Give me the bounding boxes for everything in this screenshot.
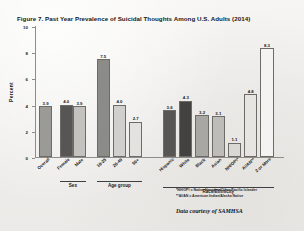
group-label-sex: Sex bbox=[69, 183, 77, 188]
footnote-nhopi: *NH/OPI = Native Hawaiian/Other Pacific … bbox=[176, 188, 257, 193]
bar-value-label: 1.1 bbox=[232, 137, 238, 142]
x-axis-label: Overall bbox=[36, 157, 50, 171]
y-tick-label: 2 bbox=[26, 129, 28, 134]
x-axis-label: NH/OPI* bbox=[224, 157, 240, 172]
bar-value-label: 3.2 bbox=[199, 110, 205, 115]
bar-value-label: 2.7 bbox=[133, 116, 139, 121]
group-bracket-sex bbox=[60, 181, 87, 182]
plot-area: Percent 0246810 3.9Overall4.0Female3.9Ma… bbox=[35, 26, 284, 158]
bar-white: 4.3White bbox=[179, 101, 192, 157]
y-tick-10: 10 bbox=[32, 27, 35, 28]
bar-series: 3.9Overall4.0Female3.9Male7.518-254.026-… bbox=[36, 26, 284, 157]
bar-value-label: 4.8 bbox=[248, 89, 254, 94]
footnote-aian: **AI/AN = American Indian/Alaska Native bbox=[176, 194, 243, 199]
bar-value-label: 3.6 bbox=[167, 105, 173, 110]
bar-value-label: 4.0 bbox=[63, 99, 69, 104]
bar-value-label: 8.3 bbox=[264, 43, 270, 48]
y-tick-label: 4 bbox=[26, 103, 28, 108]
bar-2-or-more: 8.32 or More bbox=[260, 48, 273, 157]
bar-value-label: 4.3 bbox=[183, 95, 189, 100]
y-tick-8: 8 bbox=[32, 53, 35, 54]
bar-value-label: 3.1 bbox=[215, 111, 221, 116]
x-axis-label: 50+ bbox=[131, 157, 140, 166]
y-tick-0: 0 bbox=[32, 158, 35, 159]
bar-value-label: 3.9 bbox=[43, 101, 49, 106]
y-tick-2: 2 bbox=[32, 132, 35, 133]
x-axis-label: Hispanic bbox=[158, 157, 175, 173]
x-axis-label: 26-49 bbox=[112, 157, 124, 168]
group-bracket-age-group bbox=[97, 181, 143, 182]
y-tick-label: 10 bbox=[23, 25, 28, 30]
y-tick-label: 8 bbox=[26, 51, 28, 56]
bar-overall: 3.9Overall bbox=[39, 106, 52, 157]
y-tick-label: 0 bbox=[26, 156, 28, 161]
group-label-age-group: Age group bbox=[108, 183, 131, 188]
bar-black: 3.2Black bbox=[195, 115, 208, 157]
x-axis-label: Asian bbox=[210, 157, 222, 169]
bar-18-25: 7.518-25 bbox=[97, 59, 110, 157]
x-axis-label: Male bbox=[73, 157, 84, 167]
bar-value-label: 7.5 bbox=[100, 54, 106, 59]
bar-asian: 3.1Asian bbox=[212, 116, 225, 157]
x-axis-line bbox=[35, 157, 284, 158]
data-credit: Data courtesy of SAMHSA bbox=[176, 208, 243, 214]
figure-title: Figure 7. Past Year Prevalence of Suicid… bbox=[17, 15, 293, 23]
y-tick-4: 4 bbox=[32, 106, 35, 107]
y-tick-label: 6 bbox=[26, 77, 28, 82]
bar-value-label: 3.9 bbox=[77, 101, 83, 106]
x-axis-label: White bbox=[178, 157, 190, 169]
bar-female: 4.0Female bbox=[60, 105, 73, 157]
y-tick-6: 6 bbox=[32, 79, 35, 80]
bar-value-label: 4.0 bbox=[116, 99, 122, 104]
x-axis-label: Female bbox=[56, 157, 71, 171]
bar-50: 2.750+ bbox=[129, 122, 142, 157]
x-axis-label: Black bbox=[194, 157, 206, 169]
y-axis-title: Percent bbox=[8, 82, 14, 102]
x-axis-label: 18-25 bbox=[96, 157, 108, 168]
bar-26-49: 4.026-49 bbox=[113, 105, 126, 157]
bar-ai-an: 4.8AI/AN** bbox=[244, 94, 257, 157]
bar-male: 3.9Male bbox=[73, 106, 86, 157]
bar-hispanic: 3.6Hispanic bbox=[163, 110, 176, 157]
x-axis-label: 2 or More bbox=[254, 156, 272, 173]
bar-nh-opi: 1.1NH/OPI* bbox=[228, 143, 241, 157]
figure-container: Figure 7. Past Year Prevalence of Suicid… bbox=[0, 0, 304, 231]
